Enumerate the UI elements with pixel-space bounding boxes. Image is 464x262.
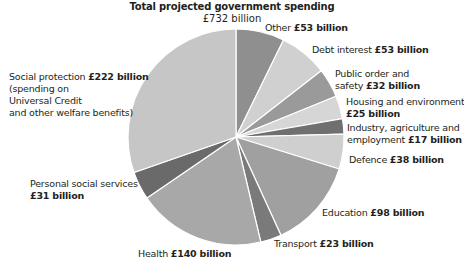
pie-slices bbox=[128, 29, 344, 245]
label-health: Health £140 billion bbox=[138, 248, 231, 260]
label-debt-interest: Debt interest £53 billion bbox=[312, 44, 429, 56]
label-social-protection: Social protection £222 billion (spending… bbox=[9, 71, 149, 119]
label-transport: Transport £23 billion bbox=[274, 238, 374, 250]
label-public-order: Public order and safety £32 billion bbox=[335, 68, 420, 92]
label-defence: Defence £38 billion bbox=[349, 154, 444, 166]
label-education: Education £98 billion bbox=[322, 207, 424, 219]
label-other: Other £53 billion bbox=[265, 22, 348, 34]
label-housing: Housing and environment £25 billion bbox=[346, 96, 464, 120]
label-industry: Industry, agriculture and employment £17… bbox=[347, 122, 462, 146]
label-personal-social-services: Personal social services £31 billion bbox=[30, 178, 138, 202]
